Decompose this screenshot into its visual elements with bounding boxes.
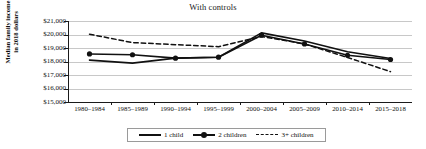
legend-swatch-icon bbox=[256, 131, 278, 139]
legend-swatch-icon bbox=[139, 131, 161, 139]
x-tick-mark bbox=[240, 102, 241, 105]
legend-item[interactable]: 3+ children bbox=[256, 131, 313, 139]
x-axis-tick-labels: 1980–19841985–19891990–19941995–19992000… bbox=[0, 0, 426, 149]
x-tick-label: 2015–2018 bbox=[365, 105, 417, 113]
legend-label: 2 children bbox=[218, 132, 246, 139]
x-tick-mark bbox=[154, 102, 155, 105]
legend-swatch-icon bbox=[193, 131, 215, 139]
chart-legend: 1 child2 children3+ children bbox=[127, 128, 326, 142]
x-tick-mark bbox=[326, 102, 327, 105]
legend-item[interactable]: 2 children bbox=[193, 131, 246, 139]
x-tick-mark bbox=[283, 102, 284, 105]
x-tick-mark bbox=[111, 102, 112, 105]
chart-figure: With controls Median family income in 20… bbox=[0, 0, 426, 149]
legend-label: 1 child bbox=[164, 132, 183, 139]
x-tick-mark bbox=[369, 102, 370, 105]
x-tick-mark bbox=[197, 102, 198, 105]
legend-item[interactable]: 1 child bbox=[139, 131, 183, 139]
legend-label: 3+ children bbox=[281, 132, 313, 139]
